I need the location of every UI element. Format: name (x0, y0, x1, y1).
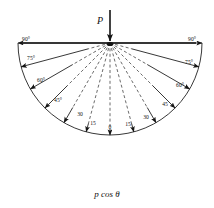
angle-label: 45 (162, 101, 168, 107)
angle-label: 30 (143, 114, 149, 120)
origin-point (107, 42, 114, 46)
figure-canvas: P p cos θ 90°75°60°45°3015015304560°75°9… (0, 0, 214, 208)
angle-label: 45° (54, 97, 62, 103)
angle-label: 15 (90, 120, 96, 126)
angle-label: 60° (176, 82, 184, 88)
angle-label: 90° (22, 36, 30, 42)
bottom-label: p cos θ (93, 189, 120, 199)
angle-label: 90° (188, 36, 196, 42)
angle-label: 75° (27, 55, 35, 61)
angle-label: 15 (125, 121, 131, 127)
angle-label: 60° (37, 77, 45, 83)
figure-background (0, 0, 214, 208)
load-label: P (96, 15, 103, 26)
stress-distribution-figure: P p cos θ 90°75°60°45°3015015304560°75°9… (0, 0, 214, 208)
angle-label: 30 (77, 111, 83, 117)
angle-label: 0 (109, 124, 112, 130)
angle-label: 75° (185, 59, 193, 65)
